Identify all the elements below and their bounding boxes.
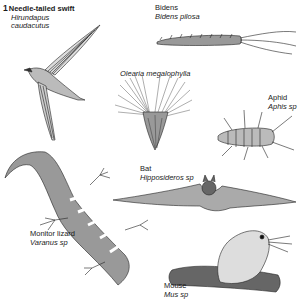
aphid-scientific-name: Aphis sp: [268, 103, 297, 112]
aphid-illustration: [218, 110, 294, 160]
bidens-illustration: [157, 31, 296, 54]
lizard-label: Monitor lizard Varanus sp: [30, 230, 75, 247]
swift-illustration: [24, 25, 100, 140]
bat-scientific-name: Hipposideros sp: [140, 174, 194, 183]
olearia-illustration: [115, 75, 192, 150]
aphid-label: Aphid Aphis sp: [268, 94, 297, 111]
swift-scientific-name-2: caudacutus: [3, 22, 75, 31]
mouse-label: Mouse Mus sp: [164, 282, 188, 299]
lizard-scientific-name: Varanus sp: [30, 239, 75, 248]
bat-label: Bat Hipposideros sp: [140, 165, 194, 182]
swift-common-name: Needle-tailed swift: [9, 4, 75, 13]
olearia-scientific-name: Olearia megalophylla: [120, 70, 190, 79]
mouse-scientific-name: Mus sp: [164, 291, 188, 300]
swift-label: 1Needle-tailed swift Hirundapus caudacut…: [3, 4, 75, 31]
figure-number: 1: [3, 3, 8, 13]
bidens-scientific-name: Bidens pilosa: [155, 13, 200, 22]
illustration-canvas: [0, 0, 302, 304]
bidens-label: Bidens Bidens pilosa: [155, 4, 200, 21]
monitor-lizard-illustration: [5, 152, 148, 285]
olearia-label: Olearia megalophylla: [120, 70, 190, 79]
